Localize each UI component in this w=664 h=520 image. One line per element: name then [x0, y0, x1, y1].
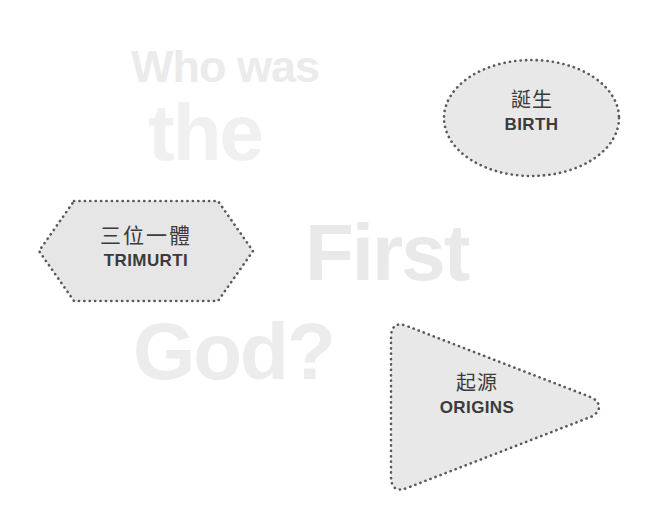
shape-trimurti[interactable]: 三位一體 TRIMURTI	[36, 198, 256, 304]
shape-birth-roman: BIRTH	[441, 115, 622, 135]
shape-origins[interactable]: 起源 ORIGINS	[385, 316, 605, 498]
headline-line-2: the	[148, 93, 262, 173]
shape-birth-label: 誕生 BIRTH	[441, 89, 622, 135]
headline-line-4: God?	[133, 312, 334, 392]
shape-birth-cjk: 誕生	[441, 89, 622, 112]
shape-origins-cjk: 起源	[367, 372, 587, 395]
shape-trimurti-roman: TRIMURTI	[36, 251, 256, 271]
shape-trimurti-label: 三位一體 TRIMURTI	[36, 224, 256, 271]
shape-birth[interactable]: 誕生 BIRTH	[441, 57, 622, 179]
shape-trimurti-cjk: 三位一體	[36, 224, 256, 248]
headline-line-1: Who was	[131, 44, 319, 89]
shape-origins-label: 起源 ORIGINS	[367, 372, 587, 418]
headline-line-3: First	[305, 213, 468, 293]
shape-origins-roman: ORIGINS	[367, 398, 587, 418]
slide-canvas: Who was the First God? 三位一體 TRIMURTI 誕生 …	[0, 0, 664, 520]
